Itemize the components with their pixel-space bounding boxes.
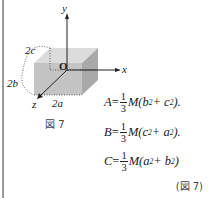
figure-reference: (図 7) (176, 178, 203, 193)
y-axis-label: y (62, 3, 67, 14)
x-axis-label: x (122, 64, 127, 75)
equation-b: B = 13 M(c2 + a2). (104, 121, 181, 144)
figure-caption: 図 7 (45, 116, 65, 131)
equation-c: C = 13 M(a2 + b2) (104, 150, 179, 173)
origin-label: O (59, 61, 68, 72)
dimension-2a-label: 2a (52, 98, 63, 109)
dimension-2c-label: 2c (25, 45, 35, 56)
dimension-2b-label: 2b (7, 78, 18, 89)
equation-a: A = 13 M(b2 + c2). (104, 91, 181, 114)
z-axis-label: z (32, 99, 36, 110)
